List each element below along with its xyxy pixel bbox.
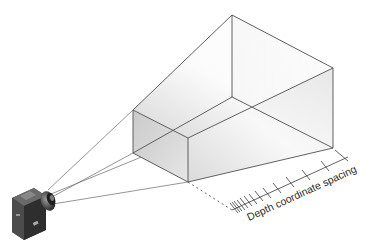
viewing-frustum	[133, 15, 333, 182]
depth-axis-label: Depth coordinate spacing	[245, 162, 358, 222]
frustum-diagram: Depth coordinate spacing	[0, 0, 366, 242]
camera-icon	[12, 188, 58, 240]
